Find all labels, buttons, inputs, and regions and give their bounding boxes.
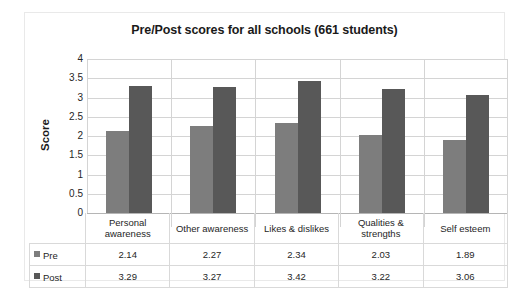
table-column-header: Qualities & strengths xyxy=(339,213,423,244)
bar-post xyxy=(213,87,236,213)
legend-item-post[interactable]: Post xyxy=(30,266,86,288)
table-row: Post3.293.273.423.223.06 xyxy=(30,266,508,288)
table-cell: 2.03 xyxy=(339,244,423,266)
y-axis-tick-label: 1.5 xyxy=(55,150,83,160)
y-axis-tick-label: 1 xyxy=(55,170,83,180)
data-table: Personal awarenessOther awarenessLikes &… xyxy=(29,213,508,288)
table-column-header: Self esteem xyxy=(423,213,507,244)
table-cell: 1.89 xyxy=(423,244,507,266)
y-axis-tick-label: 3 xyxy=(55,93,83,103)
table-cell: 3.42 xyxy=(254,266,338,288)
table-column-header: Personal awareness xyxy=(86,213,170,244)
y-axis-tick-label: 0.5 xyxy=(55,189,83,199)
bar-pre xyxy=(190,126,213,213)
bar-groups xyxy=(87,59,508,213)
bar-pre xyxy=(359,135,382,213)
table-column-header: Likes & dislikes xyxy=(254,213,338,244)
table-cell: 3.27 xyxy=(170,266,254,288)
bar-post xyxy=(129,86,152,213)
legend-swatch-icon xyxy=(34,251,40,257)
y-axis-tick-label: 3.5 xyxy=(55,73,83,83)
bar-pre xyxy=(275,123,298,213)
table-column-header: Other awareness xyxy=(170,213,254,244)
y-axis-tick-label: 2.5 xyxy=(55,112,83,122)
y-axis-tick-labels: 43.532.521.510.50 xyxy=(55,59,83,213)
table-cell: 2.34 xyxy=(254,244,338,266)
bar-post xyxy=(466,95,489,213)
y-axis-title: Score xyxy=(37,105,53,165)
table-cell: 2.27 xyxy=(170,244,254,266)
bar-group xyxy=(340,59,424,213)
bar-group xyxy=(171,59,255,213)
table-header-row: Personal awarenessOther awarenessLikes &… xyxy=(30,213,508,244)
table-cell: 3.06 xyxy=(423,266,507,288)
bar-group xyxy=(255,59,339,213)
table-cell: 3.22 xyxy=(339,266,423,288)
y-axis-tick-label: 2 xyxy=(55,131,83,141)
legend-label: Post xyxy=(43,271,62,282)
legend-label: Pre xyxy=(43,249,58,260)
table-row: Pre2.142.272.342.031.89 xyxy=(30,244,508,266)
bar-post xyxy=(298,81,321,213)
legend-item-pre[interactable]: Pre xyxy=(30,244,86,266)
y-axis-tick-label: 4 xyxy=(55,54,83,64)
table-cell: 2.14 xyxy=(86,244,170,266)
table-corner-cell xyxy=(30,213,86,244)
chart-title: Pre/Post scores for all schools (661 stu… xyxy=(25,23,504,37)
legend-swatch-icon xyxy=(34,273,40,279)
bar-pre xyxy=(106,131,129,213)
bar-pre xyxy=(443,140,466,213)
bar-group xyxy=(87,59,171,213)
table-cell: 3.29 xyxy=(86,266,170,288)
chart-container: Pre/Post scores for all schools (661 stu… xyxy=(24,12,505,281)
bar-post xyxy=(382,89,405,213)
bar-group xyxy=(424,59,508,213)
